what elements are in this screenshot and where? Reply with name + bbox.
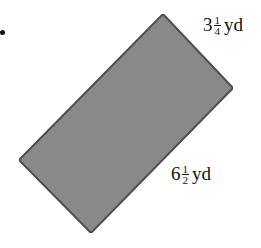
long-side-label: 6 1 2 yd <box>171 163 211 185</box>
short-side-label: 3 1 4 yd <box>203 14 243 36</box>
short-side-fraction: 1 4 <box>214 15 222 36</box>
short-side-denominator: 4 <box>215 26 221 36</box>
rectangle-figure <box>0 0 261 248</box>
long-side-whole: 6 <box>171 163 181 185</box>
long-side-unit: yd <box>192 163 211 185</box>
rectangle-shape <box>19 14 233 233</box>
short-side-whole: 3 <box>203 14 213 36</box>
short-side-numerator: 1 <box>214 15 222 26</box>
short-side-unit: yd <box>224 14 243 36</box>
long-side-denominator: 2 <box>183 175 189 185</box>
long-side-fraction: 1 2 <box>182 164 190 185</box>
long-side-numerator: 1 <box>182 164 190 175</box>
